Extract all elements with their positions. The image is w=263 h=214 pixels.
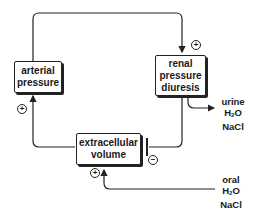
node-label: volume — [91, 149, 126, 160]
node-label: pressure — [17, 77, 59, 88]
oral-intake-label: oral H2O NaCl — [216, 174, 246, 210]
node-label: diuresis — [161, 82, 199, 93]
arrow-urine-out — [188, 97, 214, 108]
inhibit-renal-to-extracellular — [149, 96, 182, 147]
node-label: pressure — [159, 70, 201, 81]
node-extracellular-volume: extracellularvolume — [76, 133, 141, 165]
node-label: extracellular — [79, 137, 138, 148]
plus-sign-icon: + — [90, 168, 100, 178]
node-arterial-pressure: arterialpressure — [14, 61, 62, 93]
plus-sign-icon: + — [17, 104, 27, 114]
node-label: renal — [169, 58, 193, 69]
plus-sign-icon: + — [191, 40, 201, 50]
minus-sign-icon: − — [148, 155, 158, 165]
arrow-extracellular-to-arterial — [33, 96, 75, 147]
urine-output-label: urine H2O NaCl — [218, 96, 248, 132]
node-renal-pressure-diuresis: renalpressurediuresis — [155, 55, 206, 96]
arrow-oral-in — [104, 170, 215, 189]
arrow-arterial-to-renal — [33, 13, 182, 61]
node-label: arterial — [21, 65, 54, 76]
